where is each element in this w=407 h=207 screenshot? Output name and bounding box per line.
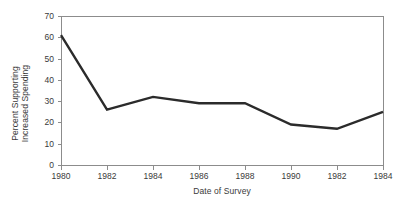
chart-figure: Percent Supporting Increased Spending 01… bbox=[0, 0, 407, 207]
data-series-line bbox=[61, 35, 383, 129]
axes-frame bbox=[62, 17, 384, 166]
plot-area bbox=[0, 0, 407, 207]
tick-marks bbox=[58, 17, 384, 170]
